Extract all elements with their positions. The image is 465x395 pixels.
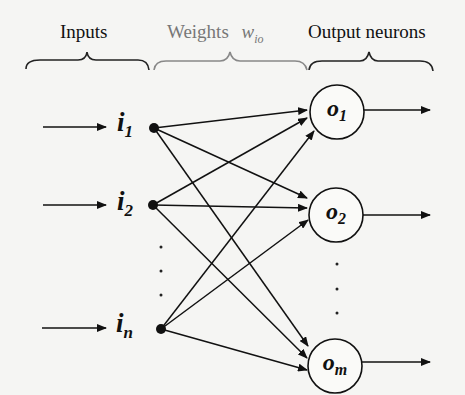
- output-symbol-m: om: [308, 349, 362, 379]
- input-symbol-base: i: [117, 107, 125, 137]
- weights-label: Weights wio: [167, 21, 264, 47]
- ellipsis-dots: [160, 246, 339, 315]
- output-symbol-base: o: [323, 349, 335, 375]
- input-symbol-base: i: [116, 308, 124, 338]
- input-symbol-1: i1: [117, 107, 133, 142]
- weights-symbol: wio: [242, 21, 264, 42]
- neural-network-diagram: Inputs Weights wio Output neurons i1 i2 …: [0, 0, 465, 395]
- output-symbol-base: o: [327, 95, 339, 121]
- input-symbol-subscript: 2: [125, 201, 134, 220]
- input-symbol-subscript: n: [124, 323, 133, 342]
- network-graph: [0, 0, 465, 395]
- outputs-label: Output neurons: [308, 21, 426, 43]
- weights-text: Weights: [167, 21, 229, 42]
- input-symbol-2: i2: [117, 186, 133, 221]
- input-symbol-subscript: 1: [125, 122, 134, 141]
- weight-connections: [153, 110, 314, 370]
- output-symbol-2: o2: [309, 198, 363, 228]
- inputs-brace: [26, 52, 149, 70]
- output-symbol-subscript: m: [335, 361, 347, 378]
- output-symbol-subscript: 2: [338, 210, 346, 227]
- weights-symbol-base: w: [242, 21, 255, 42]
- output-symbol-subscript: 1: [339, 107, 347, 124]
- output-symbol-base: o: [326, 198, 338, 224]
- input-symbol-n: in: [116, 308, 133, 343]
- weights-brace: [154, 52, 307, 70]
- output-symbol-1: o1: [310, 95, 364, 125]
- inputs-label: Inputs: [60, 21, 108, 43]
- outputs-brace: [309, 52, 433, 71]
- input-symbol-base: i: [117, 186, 125, 216]
- weights-symbol-subscript: io: [254, 32, 263, 46]
